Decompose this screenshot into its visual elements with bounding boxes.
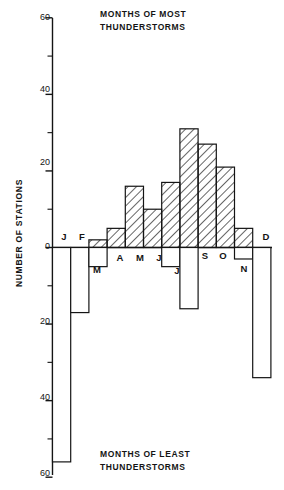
bar-least-j-0 (53, 248, 71, 462)
bar-most-n-10 (235, 228, 253, 247)
bar-most-m-4 (125, 186, 143, 247)
bars-months-of-most-thunderstorms (89, 129, 253, 248)
bar-most-a-7 (180, 129, 198, 248)
bar-most-s-8 (198, 144, 216, 247)
bar-least-f-1 (71, 248, 89, 313)
bar-least-m-2 (89, 248, 107, 267)
bar-most-a-3 (107, 228, 125, 247)
y-axis-ticks (46, 18, 53, 477)
bar-most-o-9 (216, 167, 234, 247)
plot-area (0, 0, 284, 490)
bar-least-a-7 (180, 248, 198, 309)
thunderstorm-bar-chart: MONTHS OF MOSTTHUNDERSTORMS MONTHS OF LE… (0, 0, 284, 490)
bar-most-j-5 (144, 209, 162, 247)
bar-most-m-2 (89, 240, 107, 248)
bar-least-j-6 (162, 248, 180, 267)
bar-least-d-11 (253, 248, 271, 378)
bar-most-j-6 (162, 182, 180, 247)
bar-least-n-10 (235, 248, 253, 259)
bars-months-of-least-thunderstorms (53, 248, 271, 462)
